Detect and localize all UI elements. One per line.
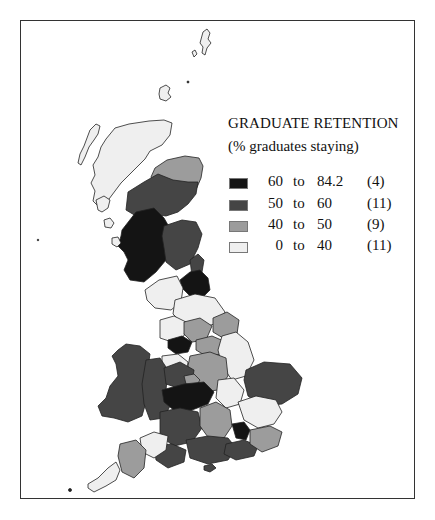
legend-to-word: to <box>293 173 305 190</box>
legend-count: (4) <box>367 173 385 190</box>
legend-to: 50 <box>317 216 332 233</box>
legend-to-word: to <box>293 195 305 212</box>
legend-count: (11) <box>367 195 391 212</box>
shetland-islands <box>192 29 211 57</box>
legend-to: 40 <box>317 237 332 254</box>
region-devon <box>118 440 146 478</box>
isles-of-scilly <box>69 489 72 492</box>
legend-from: 50 <box>261 195 283 212</box>
choropleth-map <box>0 0 435 520</box>
orkney-islands <box>159 85 171 101</box>
legend-to: 60 <box>317 195 332 212</box>
legend-swatch-light <box>229 242 248 253</box>
legend-to-word: to <box>293 237 305 254</box>
inner-hebrides <box>96 196 121 247</box>
legend-count: (9) <box>367 216 385 233</box>
legend-swatch-mid-grey <box>229 221 248 232</box>
region-cornwall <box>88 462 120 492</box>
legend-title: GRADUATE RETENTION <box>228 115 399 132</box>
legend-to: 84.2 <box>317 173 343 190</box>
legend-subtitle: (% graduates staying) <box>228 138 359 155</box>
legend-from: 40 <box>261 216 283 233</box>
legend-to-word: to <box>293 216 305 233</box>
legend-count: (11) <box>367 237 391 254</box>
isle-of-wight <box>204 464 216 472</box>
legend-from: 0 <box>261 237 283 254</box>
legend-from: 60 <box>261 173 283 190</box>
legend-swatch-black <box>229 178 248 189</box>
legend-swatch-dark-grey <box>229 200 248 211</box>
region-greater-london <box>232 422 250 440</box>
